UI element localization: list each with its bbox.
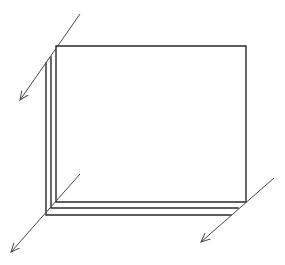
middle-sheet: [51, 57, 238, 208]
arrow-bottom-right: [201, 178, 274, 242]
back-sheet: [56, 46, 246, 202]
front-sheet: [46, 63, 231, 215]
stacked-sheets-diagram: [0, 0, 285, 265]
arrow-top-left: [20, 14, 80, 100]
